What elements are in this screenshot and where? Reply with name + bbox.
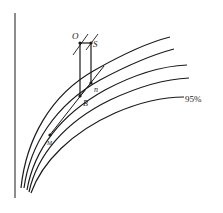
diagram-canvas: O S n B M 95% — [0, 0, 223, 213]
curve-5 — [31, 97, 184, 193]
label-B: B — [83, 99, 88, 108]
point-B — [78, 94, 81, 97]
label-S: S — [93, 39, 98, 49]
point-n — [89, 81, 92, 84]
point-M — [48, 133, 51, 136]
label-n: n — [94, 85, 98, 94]
label-M: M — [46, 140, 53, 146]
line-B-diag — [80, 83, 91, 96]
label-O: O — [72, 31, 79, 41]
curve-2 — [24, 49, 174, 188]
curve-1 — [21, 37, 170, 188]
point-O — [78, 41, 81, 44]
label-95-percent: 95% — [185, 94, 202, 104]
curve-4 — [29, 78, 189, 192]
curve-3 — [27, 65, 187, 190]
